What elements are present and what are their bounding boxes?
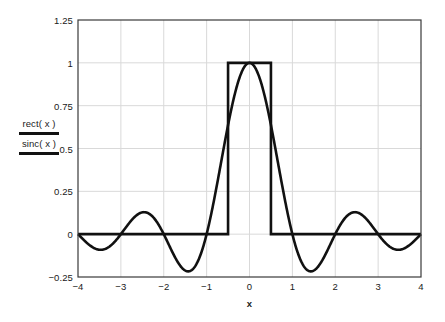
plot-canvas xyxy=(0,0,445,322)
chart-figure: rect( x ) sinc( x ) 1.25 1 0.75 0.5 0.25… xyxy=(0,0,445,322)
grid-lines xyxy=(78,20,421,277)
